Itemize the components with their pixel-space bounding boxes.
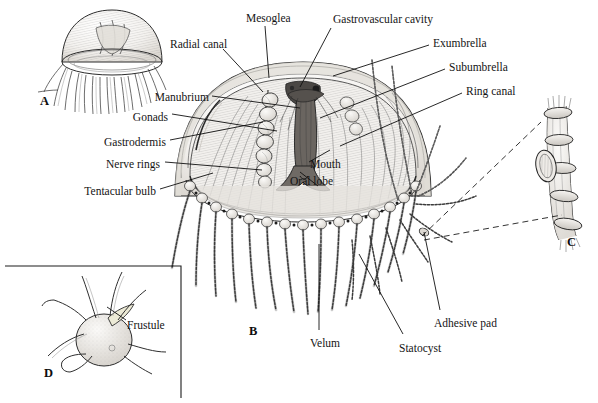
panel-c-drawing <box>533 95 582 252</box>
label-exumbrella: Exumbrella <box>433 38 487 50</box>
figure-canvas: Mesoglea Gastrovascular cavity Exumbrell… <box>0 0 598 403</box>
panel-letter-a: A <box>40 95 49 108</box>
label-frustule: Frustule <box>127 320 165 332</box>
label-manubrium: Manubrium <box>155 92 209 104</box>
label-statocyst: Statocyst <box>399 343 441 355</box>
label-subumbrella: Subumbrella <box>449 62 508 74</box>
leader-adhesive-pad <box>424 232 440 310</box>
label-radial-canal: Radial canal <box>170 39 227 51</box>
label-gonads: Gonads <box>133 112 168 124</box>
illustration-layer <box>0 0 598 403</box>
leader-statocyst <box>359 254 403 334</box>
panel-letter-b: B <box>249 325 257 338</box>
leader-exumbrella <box>333 45 429 76</box>
label-tentacular-bulb: Tentacular bulb <box>84 186 156 198</box>
label-gastrovascular-cavity: Gastrovascular cavity <box>333 14 433 26</box>
connector-c-upper <box>422 122 541 236</box>
panel-letter-d: D <box>44 367 53 380</box>
label-gastrodermis: Gastrodermis <box>104 137 166 149</box>
label-nerve-rings: Nerve rings <box>106 159 160 171</box>
panel-letter-c: C <box>567 236 576 249</box>
panel-a-drawing <box>38 10 166 114</box>
label-mouth: Mouth <box>310 159 341 171</box>
label-adhesive-pad: Adhesive pad <box>434 318 497 330</box>
label-velum: Velum <box>310 338 340 350</box>
connector-c-lower <box>424 215 562 240</box>
label-mesoglea: Mesoglea <box>246 13 291 25</box>
label-oral-lobe: Oral lobe <box>290 176 333 188</box>
label-ring-canal: Ring canal <box>466 86 516 98</box>
